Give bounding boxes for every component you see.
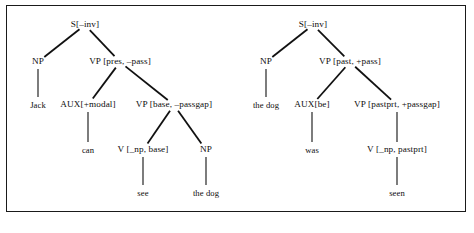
tree-node-s1: S[–inv]: [71, 20, 99, 29]
tree-node-aux1: AUX[+modal]: [60, 100, 115, 109]
tree-leaf-jack: Jack: [30, 101, 46, 110]
tree-node-s2: S[–inv]: [299, 20, 327, 29]
tree-node-vp3: VP [past, +pass]: [319, 57, 381, 66]
tree-leaf-was: was: [305, 146, 319, 155]
tree-leaf-can: can: [82, 146, 94, 155]
tree-node-aux2: AUX[be]: [294, 100, 329, 109]
tree-node-np2: NP: [200, 145, 212, 154]
tree-node-np1: NP: [32, 57, 44, 66]
tree-node-np3: NP: [260, 57, 272, 66]
tree-leaf-thedog2: the dog: [253, 101, 279, 110]
tree-node-v2: V [_np, pastprt]: [367, 145, 427, 154]
syntax-tree-figure: S[–inv]NPVP [pres, –pass]JackAUX[+modal]…: [0, 0, 474, 233]
tree-leaf-seen: seen: [389, 189, 405, 198]
tree-leaf-thedog1: the dog: [193, 189, 219, 198]
tree-node-vp4: VP [pastprt, +passgap]: [354, 100, 440, 109]
tree-node-v1: V [_np, base]: [118, 145, 169, 154]
tree-node-vp1: VP [pres, –pass]: [89, 57, 151, 66]
tree-node-vp2: VP [base, –passgap]: [136, 100, 212, 109]
tree-leaf-see: see: [137, 189, 148, 198]
